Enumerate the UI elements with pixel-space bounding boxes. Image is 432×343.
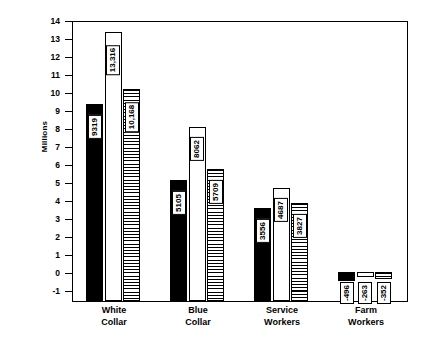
y-tick-label: 8: [20, 124, 60, 134]
y-tick: 1: [0, 250, 72, 260]
bar[interactable]: -496: [338, 272, 355, 281]
y-tick-label: 11: [20, 70, 60, 80]
bar[interactable]: 10,168: [123, 89, 140, 301]
y-tick-mark: [65, 255, 72, 256]
y-tick-label: 13: [20, 34, 60, 44]
y-tick: 9: [0, 106, 72, 116]
x-axis-category-label: ServiceWorkers: [240, 305, 324, 328]
y-tick-label: 2: [20, 232, 60, 242]
bar-value-label: -352: [377, 282, 391, 304]
bar-value-label: 4687: [274, 198, 288, 222]
y-tick: 14: [0, 16, 72, 26]
x-axis-category-label: FarmWorkers: [324, 305, 408, 328]
y-tick-label: 7: [20, 142, 60, 152]
bar-value-label: 3556: [256, 219, 270, 243]
y-tick: 3: [0, 214, 72, 224]
bar-group: 931913,31610,168: [86, 22, 140, 301]
y-tick-label: 10: [20, 88, 60, 98]
y-tick-mark: [65, 111, 72, 112]
bar[interactable]: -263: [357, 272, 374, 277]
y-tick-mark: [65, 93, 72, 94]
y-tick: 11: [0, 70, 72, 80]
y-tick-label: 3: [20, 214, 60, 224]
y-tick-label: 6: [20, 160, 60, 170]
bar[interactable]: 9319: [86, 104, 103, 301]
y-tick-mark: [65, 291, 72, 292]
y-tick-mark: [65, 39, 72, 40]
y-tick-label: 0: [20, 268, 60, 278]
bar[interactable]: 3556: [254, 208, 271, 301]
y-tick-mark: [65, 219, 72, 220]
y-tick-label: -1: [20, 286, 60, 296]
y-tick-mark: [65, 201, 72, 202]
y-tick-mark: [65, 183, 72, 184]
bar[interactable]: 3827: [291, 203, 308, 301]
bar-value-label: 10,168: [125, 101, 139, 131]
y-tick: 6: [0, 160, 72, 170]
y-tick-mark: [65, 21, 72, 22]
y-tick: 0: [0, 268, 72, 278]
y-axis-ticks: 14131211109876543210-1: [0, 21, 72, 302]
bar-value-label: 5709: [209, 180, 223, 204]
y-tick-mark: [65, 273, 72, 274]
y-tick-mark: [65, 147, 72, 148]
bar-chart: Millions 14131211109876543210-1 931913,3…: [0, 0, 432, 343]
bar[interactable]: 4687: [273, 188, 290, 301]
bar-value-label: 13,316: [106, 45, 120, 75]
y-tick-label: 9: [20, 106, 60, 116]
bar[interactable]: -352: [375, 272, 392, 278]
bar-group: -496-263-352: [338, 22, 392, 301]
y-tick-label: 5: [20, 178, 60, 188]
y-tick-label: 1: [20, 250, 60, 260]
y-tick-label: 14: [20, 16, 60, 26]
y-tick: 2: [0, 232, 72, 242]
bar-group: 355646873827: [254, 22, 308, 301]
x-axis-category-label: WhiteCollar: [72, 305, 156, 328]
y-tick: 10: [0, 88, 72, 98]
bar-group: 510580625709: [170, 22, 224, 301]
y-tick: 8: [0, 124, 72, 134]
y-tick: 7: [0, 142, 72, 152]
bar-value-label: 9319: [88, 115, 102, 139]
y-tick: -1: [0, 286, 72, 296]
bar[interactable]: 8062: [189, 127, 206, 301]
bar-value-label: 8062: [190, 137, 204, 161]
y-tick-mark: [65, 57, 72, 58]
bar[interactable]: 5709: [207, 169, 224, 301]
y-tick-mark: [65, 237, 72, 238]
bar-value-label: 3827: [293, 214, 307, 238]
x-axis-category-labels: WhiteCollarBlueCollarServiceWorkersFarmW…: [72, 305, 408, 343]
y-tick: 12: [0, 52, 72, 62]
bar-value-label: 5105: [172, 191, 186, 215]
bar-value-label: -263: [358, 282, 372, 304]
bar[interactable]: 5105: [170, 180, 187, 301]
y-tick-mark: [65, 75, 72, 76]
y-tick: 5: [0, 178, 72, 188]
y-tick-label: 4: [20, 196, 60, 206]
x-axis-category-label: BlueCollar: [156, 305, 240, 328]
y-tick-label: 12: [20, 52, 60, 62]
y-tick-mark: [65, 165, 72, 166]
y-tick: 4: [0, 196, 72, 206]
y-tick: 13: [0, 34, 72, 44]
plot-area: 931913,31610,168510580625709355646873827…: [72, 21, 408, 302]
y-tick-mark: [65, 129, 72, 130]
bar[interactable]: 13,316: [105, 32, 122, 301]
bar-value-label: -496: [340, 282, 354, 304]
